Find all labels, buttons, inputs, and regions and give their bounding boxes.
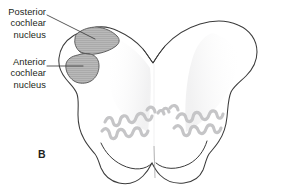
panel-letter-label: B xyxy=(38,148,46,160)
anterior-cochlear-nucleus-shape xyxy=(66,54,99,84)
anatomy-figure-panel: Posterior cochlear nucleus Anterior coch… xyxy=(0,0,283,186)
label-posterior-line-3: nucleus xyxy=(0,30,46,41)
label-anterior-line-3: nucleus xyxy=(0,80,46,91)
label-anterior-line-2: cochlear xyxy=(0,68,46,79)
label-posterior-line-1: Posterior xyxy=(0,7,46,18)
label-anterior-line-1: Anterior xyxy=(0,57,46,68)
leader-line-posterior xyxy=(47,15,95,39)
label-anterior-cochlear-nucleus: Anterior cochlear nucleus xyxy=(0,57,46,91)
label-posterior-line-2: cochlear xyxy=(0,18,46,29)
label-posterior-cochlear-nucleus: Posterior cochlear nucleus xyxy=(0,7,46,41)
